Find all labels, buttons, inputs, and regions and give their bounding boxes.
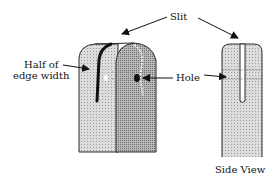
slit-arrow-side bbox=[198, 18, 238, 38]
diagram-graphics bbox=[0, 0, 273, 185]
slit-arrow-front bbox=[122, 17, 167, 34]
front-view-object bbox=[79, 43, 156, 152]
side-view-object bbox=[222, 44, 262, 157]
half-edge-label-line2: edge width bbox=[13, 70, 69, 81]
diagram: Slit Half of edge width Hole Side View bbox=[0, 0, 273, 185]
side-view-label: Side View bbox=[215, 164, 265, 175]
hole-dot bbox=[134, 74, 140, 82]
slit-label: Slit bbox=[170, 11, 187, 22]
hole-label: Hole bbox=[176, 72, 200, 83]
half-edge-label-line1: Half of bbox=[24, 59, 58, 70]
